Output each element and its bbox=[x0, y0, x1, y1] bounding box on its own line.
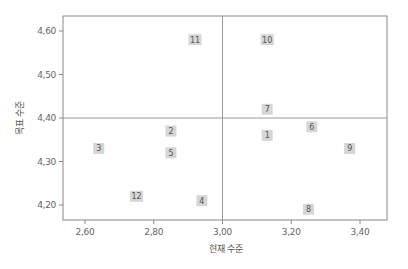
y-axis-ticks: 4,204,304,404,504,60 bbox=[37, 26, 63, 210]
x-axis-ticks: 2,602,803,003,203,40 bbox=[76, 220, 370, 237]
data-point-1: 1 bbox=[262, 130, 273, 141]
data-point-4: 4 bbox=[196, 195, 207, 206]
data-point-10: 10 bbox=[261, 34, 274, 45]
point-label: 1 bbox=[265, 131, 270, 140]
data-point-7: 7 bbox=[262, 104, 273, 115]
point-label: 10 bbox=[262, 36, 272, 45]
data-point-3: 3 bbox=[93, 143, 104, 154]
data-points: 123456789101112 bbox=[93, 34, 355, 215]
point-label: 7 bbox=[265, 105, 270, 114]
x-tick-label: 3,00 bbox=[213, 227, 232, 237]
point-label: 5 bbox=[168, 149, 173, 158]
y-tick-label: 4,60 bbox=[37, 26, 56, 36]
point-label: 6 bbox=[309, 123, 314, 132]
quadrant-scatter-chart: 2,602,803,003,203,40 4,204,304,404,504,6… bbox=[0, 0, 408, 269]
point-label: 11 bbox=[190, 36, 200, 45]
y-tick-label: 4,50 bbox=[37, 70, 56, 80]
data-point-8: 8 bbox=[303, 204, 314, 215]
point-label: 4 bbox=[199, 197, 204, 206]
data-point-5: 5 bbox=[165, 147, 176, 158]
point-label: 2 bbox=[168, 127, 173, 136]
data-point-12: 12 bbox=[130, 191, 143, 202]
data-point-9: 9 bbox=[344, 143, 355, 154]
y-tick-label: 4,30 bbox=[37, 157, 56, 167]
x-tick-label: 3,40 bbox=[351, 227, 370, 237]
quadrant-reference-lines bbox=[63, 16, 387, 220]
data-point-6: 6 bbox=[306, 121, 317, 132]
point-label: 12 bbox=[131, 192, 141, 201]
y-tick-label: 4,40 bbox=[37, 113, 56, 123]
x-tick-label: 2,80 bbox=[144, 227, 163, 237]
x-tick-label: 2,60 bbox=[76, 227, 95, 237]
point-label: 8 bbox=[306, 205, 311, 214]
point-label: 3 bbox=[96, 144, 101, 153]
data-point-2: 2 bbox=[165, 126, 176, 137]
x-axis-title: 현재 수준 bbox=[209, 244, 244, 254]
data-point-11: 11 bbox=[189, 34, 202, 45]
x-tick-label: 3,20 bbox=[282, 227, 301, 237]
point-label: 9 bbox=[347, 144, 352, 153]
y-tick-label: 4,20 bbox=[37, 200, 56, 210]
y-axis-title: 목표 수준 bbox=[15, 101, 25, 136]
